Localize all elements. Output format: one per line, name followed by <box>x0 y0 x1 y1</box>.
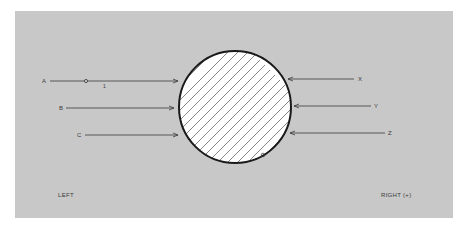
right-arrows <box>288 79 385 133</box>
label-a: A <box>42 78 46 84</box>
hatched-circle <box>150 30 320 220</box>
label-c: C <box>77 132 82 138</box>
label-x: X <box>358 76 362 82</box>
label-y: Y <box>374 103 378 109</box>
right-label: RIGHT (+) <box>381 192 411 198</box>
label-a-sub: 1 <box>103 84 106 89</box>
label-b: B <box>59 105 63 111</box>
label-z: Z <box>388 130 392 136</box>
left-arrows <box>50 79 178 135</box>
arrow-a-marker <box>84 79 87 82</box>
left-label: LEFT <box>58 192 74 198</box>
